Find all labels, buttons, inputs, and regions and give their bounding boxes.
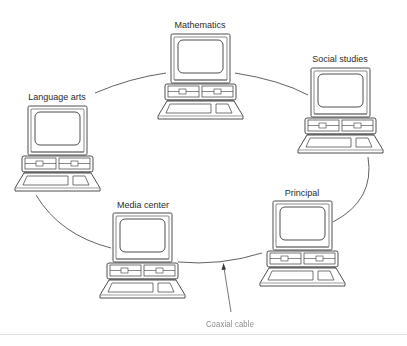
coaxial-cable-arrow	[222, 263, 232, 312]
node-label-media-center: Media center	[117, 201, 169, 210]
node-label-language-arts: Language arts	[28, 93, 86, 102]
node-label-principal: Principal	[285, 189, 320, 198]
cable-language-arts-mathematics	[95, 73, 166, 93]
coaxial-cable-label: Coaxial cable	[206, 320, 254, 329]
diagram-canvas	[0, 0, 407, 346]
ring-network-diagram: Mathematics Social studies Principal Med…	[0, 0, 407, 346]
bottom-rule	[0, 334, 407, 335]
cable-media-center-language-arts	[36, 195, 111, 248]
cable-principal-media-center	[178, 253, 262, 263]
node-label-social-studies: Social studies	[312, 55, 368, 64]
cable-social-studies-principal	[333, 157, 369, 222]
computer-principal	[260, 201, 345, 286]
computer-social-studies	[298, 68, 383, 153]
computer-language-arts	[15, 106, 100, 191]
computer-mathematics	[158, 34, 243, 119]
node-label-mathematics: Mathematics	[174, 21, 225, 30]
computer-media-center	[100, 213, 185, 298]
cable-mathematics-social-studies	[235, 73, 308, 95]
